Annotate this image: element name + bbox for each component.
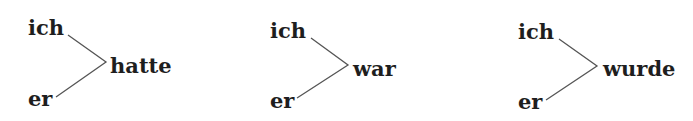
verb-war: war <box>353 58 396 79</box>
subject-er: er <box>270 90 294 111</box>
verb-hatte: hatte <box>110 55 172 76</box>
subject-er: er <box>28 88 52 109</box>
subject-er: er <box>518 91 542 112</box>
subject-ich: ich <box>518 21 554 42</box>
subject-ich: ich <box>28 17 64 38</box>
verb-wurde: wurde <box>603 58 675 79</box>
connector-lines <box>0 0 693 121</box>
connector-1 <box>56 35 106 97</box>
subject-ich: ich <box>270 20 306 41</box>
connector-3 <box>546 39 597 100</box>
connector-2 <box>297 38 348 98</box>
